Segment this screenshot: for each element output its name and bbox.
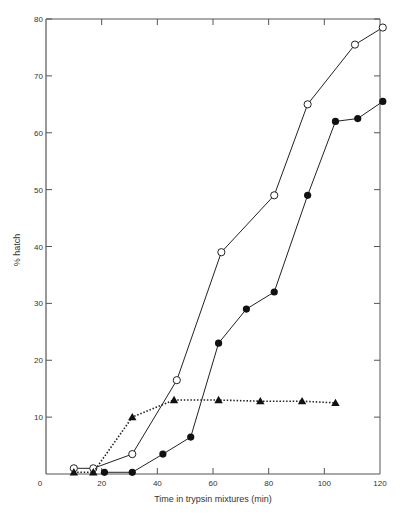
y-tick-label: 60 xyxy=(34,129,43,138)
series-filled-triangle xyxy=(70,396,340,476)
chart-canvas: 1020304050607080020406080100120 Time in … xyxy=(0,0,402,517)
filled-circle-marker xyxy=(101,469,108,476)
x-tick-label: 80 xyxy=(264,479,273,488)
y-tick-label: 80 xyxy=(34,15,43,24)
axes: 1020304050607080020406080100120 xyxy=(34,15,387,488)
triangle-marker xyxy=(170,396,178,403)
x-tick-label: 40 xyxy=(153,479,162,488)
open-circle-marker xyxy=(271,192,278,199)
y-axis-label: % hatch xyxy=(12,234,22,267)
y-tick-label: 10 xyxy=(34,413,43,422)
x-tick-label: 0 xyxy=(38,479,43,488)
series-line xyxy=(104,101,382,472)
filled-circle-marker xyxy=(379,98,386,105)
y-tick-label: 70 xyxy=(34,72,43,81)
open-circle-marker xyxy=(173,377,180,384)
filled-circle-marker xyxy=(304,192,311,199)
series-open-circle xyxy=(70,24,386,472)
filled-circle-marker xyxy=(332,118,339,125)
x-tick-label: 20 xyxy=(97,479,106,488)
y-tick-label: 20 xyxy=(34,356,43,365)
filled-circle-marker xyxy=(129,469,136,476)
x-tick-label: 120 xyxy=(373,479,387,488)
open-circle-marker xyxy=(379,24,386,31)
filled-circle-marker xyxy=(187,433,194,440)
open-circle-marker xyxy=(218,249,225,256)
filled-circle-marker xyxy=(271,288,278,295)
filled-circle-marker xyxy=(215,340,222,347)
y-tick-label: 30 xyxy=(34,299,43,308)
open-circle-marker xyxy=(304,101,311,108)
y-tick-label: 40 xyxy=(34,243,43,252)
open-circle-marker xyxy=(351,41,358,48)
x-tick-label: 60 xyxy=(209,479,218,488)
x-axis-label: Time in trypsin mixtures (min) xyxy=(154,494,272,504)
series-filled-circle xyxy=(101,98,387,476)
triangle-marker xyxy=(298,397,306,404)
filled-circle-marker xyxy=(243,305,250,312)
filled-circle-marker xyxy=(159,450,166,457)
open-circle-marker xyxy=(129,450,136,457)
x-tick-label: 100 xyxy=(318,479,332,488)
filled-circle-marker xyxy=(354,115,361,122)
hatch-time-chart: 1020304050607080020406080100120 Time in … xyxy=(0,0,402,517)
y-tick-label: 50 xyxy=(34,186,43,195)
series-layer xyxy=(70,24,387,476)
